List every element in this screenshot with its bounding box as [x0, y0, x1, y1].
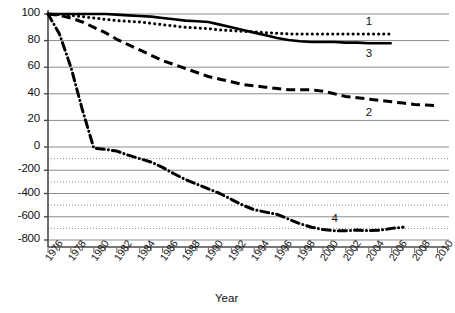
series-label-1: 1 — [366, 15, 372, 27]
y-axis-tick-label: -200 — [0, 162, 40, 174]
y-axis-tick-label: 80 — [0, 33, 40, 45]
series-line-4 — [48, 14, 403, 231]
series-label-2: 2 — [366, 106, 372, 118]
series-label-4: 4 — [331, 212, 337, 224]
x-axis-title: Year — [215, 292, 238, 304]
y-axis-tick-label: 40 — [0, 86, 40, 98]
y-axis-tick-label: -800 — [0, 232, 40, 244]
y-axis-tick-label: -400 — [0, 186, 40, 198]
line-chart: 100806040200-200-400-600-800197619781980… — [0, 0, 455, 313]
series-label-3: 3 — [366, 47, 372, 59]
chart-plot-area — [0, 0, 455, 313]
y-axis-tick-label: -600 — [0, 209, 40, 221]
y-axis-tick-label: 20 — [0, 112, 40, 124]
y-axis-tick-label: 60 — [0, 59, 40, 71]
y-axis-tick-label: 100 — [0, 6, 40, 18]
y-axis-tick-label: 0 — [0, 139, 40, 151]
series-line-2 — [48, 14, 438, 106]
